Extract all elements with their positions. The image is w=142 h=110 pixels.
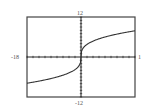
graph-plot <box>0 0 142 110</box>
